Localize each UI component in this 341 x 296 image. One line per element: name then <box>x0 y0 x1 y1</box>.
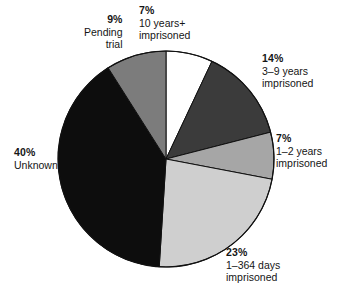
callout-pending-trial-line1: Pending <box>84 26 123 39</box>
callout-unknown-line1: Unknown <box>14 159 58 172</box>
callout-pending-trial-percent: 9% <box>84 13 123 26</box>
callout-ten-years-plus: 7% 10 years+ imprisoned <box>139 4 190 42</box>
callout-one-to-364-days-percent: 23% <box>226 246 280 259</box>
callout-three-to-nine-years-percent: 14% <box>262 52 313 65</box>
callout-three-to-nine-years-line2: imprisoned <box>262 77 313 90</box>
callout-pending-trial: 9% Pending trial <box>84 13 123 51</box>
callout-unknown: 40% Unknown <box>14 146 58 171</box>
callout-one-to-364-days-line2: imprisoned <box>226 271 280 284</box>
callout-one-to-two-years-line1: 1–2 years <box>276 145 327 158</box>
callout-ten-years-plus-line2: imprisoned <box>139 29 190 42</box>
pie-slices <box>58 51 274 267</box>
pie-chart-figure: 9% Pending trial 7% 10 years+ imprisoned… <box>0 0 341 296</box>
callout-one-to-364-days: 23% 1–364 days imprisoned <box>226 246 280 284</box>
callout-unknown-percent: 40% <box>14 146 58 159</box>
callout-three-to-nine-years-line1: 3–9 years <box>262 65 313 78</box>
callout-three-to-nine-years: 14% 3–9 years imprisoned <box>262 52 313 90</box>
callout-one-to-364-days-line1: 1–364 days <box>226 259 280 272</box>
callout-one-to-two-years-percent: 7% <box>276 132 327 145</box>
callout-one-to-two-years-line2: imprisoned <box>276 157 327 170</box>
callout-ten-years-plus-percent: 7% <box>139 4 190 17</box>
callout-ten-years-plus-line1: 10 years+ <box>139 17 190 30</box>
callout-pending-trial-line2: trial <box>84 38 123 51</box>
callout-one-to-two-years: 7% 1–2 years imprisoned <box>276 132 327 170</box>
